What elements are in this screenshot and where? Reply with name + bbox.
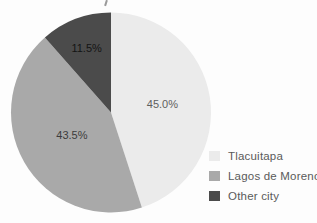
legend-label: Other city bbox=[228, 190, 279, 202]
legend-item: Tlacuitapa bbox=[209, 150, 317, 161]
pie-chart-figure: 45.0%43.5%11.5% TlacuitapaLagos de Moren… bbox=[0, 0, 317, 223]
pie-slice-percentage-label: 11.5% bbox=[71, 42, 102, 54]
pie-slice-percentage-label: 45.0% bbox=[147, 98, 178, 110]
legend: TlacuitapaLagos de MorenoOther city bbox=[209, 150, 317, 210]
legend-swatch bbox=[209, 151, 220, 161]
pie-slice-percentage-label: 43.5% bbox=[56, 129, 87, 141]
legend-item: Other city bbox=[209, 190, 317, 201]
legend-swatch bbox=[209, 191, 220, 201]
legend-item: Lagos de Moreno bbox=[209, 170, 317, 181]
legend-label: Lagos de Moreno bbox=[228, 170, 317, 182]
legend-label: Tlacuitapa bbox=[228, 150, 283, 162]
legend-swatch bbox=[209, 171, 220, 181]
